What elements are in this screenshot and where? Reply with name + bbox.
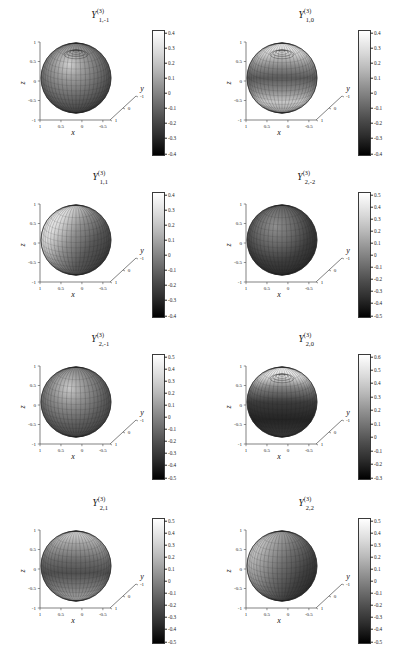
colorbar: 0.60.50.40.30.20.10-0.1-0.2-0.3 xyxy=(358,354,410,480)
colorbar-tick-label: -0.4 xyxy=(168,626,176,632)
colorbar-tick-label: 0 xyxy=(374,90,377,96)
colorbar-tick-mark xyxy=(164,617,167,618)
svg-text:0: 0 xyxy=(334,430,337,435)
svg-text:0: 0 xyxy=(81,612,84,617)
colorbar-tick-label: -0.5 xyxy=(374,313,382,319)
svg-text:y: y xyxy=(345,408,350,417)
colorbar-tick-mark xyxy=(370,153,373,154)
colorbar-tick-label: 0.5 xyxy=(374,518,380,524)
colorbar-tick-label: 0.1 xyxy=(374,240,380,246)
colorbar-tick-mark xyxy=(370,194,373,195)
colorbar-tick-label: -0.2 xyxy=(168,282,176,288)
colorbar-tick-mark xyxy=(370,629,373,630)
colorbar: 0.40.30.20.10-0.1-0.2-0.3-0.4 xyxy=(152,192,204,318)
panel-title-subscript: 2,0 xyxy=(306,340,314,347)
svg-text:0.5: 0.5 xyxy=(30,547,37,552)
svg-text:1: 1 xyxy=(115,118,118,123)
svg-text:0: 0 xyxy=(34,79,37,84)
colorbar-ticks: 0.40.30.20.10-0.1-0.2-0.3-0.4 xyxy=(165,30,203,156)
colorbar-tick-mark xyxy=(370,243,373,244)
svg-text:1: 1 xyxy=(245,124,248,129)
svg-text:x: x xyxy=(70,452,75,461)
svg-text:0: 0 xyxy=(81,448,84,453)
svg-text:0.5: 0.5 xyxy=(264,124,271,129)
colorbar-tick-mark xyxy=(370,255,373,256)
colorbar-tick-label: 0.1 xyxy=(374,566,380,572)
colorbar: 0.50.40.30.20.10-0.1-0.2-0.3-0.4-0.5 xyxy=(358,518,410,644)
svg-text:0.5: 0.5 xyxy=(30,383,37,388)
svg-text:-1: -1 xyxy=(32,606,37,611)
colorbar-tick-label: 0.1 xyxy=(168,75,174,81)
svg-text:-0.5: -0.5 xyxy=(99,448,107,453)
svg-text:0.5: 0.5 xyxy=(236,547,243,552)
panel-title-subscript: 2,-2 xyxy=(305,178,316,185)
panel-title: Y(3)1,-1 xyxy=(0,10,206,20)
colorbar-tick-mark xyxy=(370,108,373,109)
colorbar-tick-mark xyxy=(164,557,167,558)
svg-text:-1: -1 xyxy=(346,94,351,99)
panel-y-2-0: Y(3)2,010.50-0.5-1z10.50-0.5x-101y0.60.5… xyxy=(206,328,412,491)
svg-text:0: 0 xyxy=(240,567,243,572)
svg-text:-0.5: -0.5 xyxy=(234,422,242,427)
svg-text:-0.5: -0.5 xyxy=(234,586,242,591)
colorbar-tick-mark xyxy=(164,465,167,466)
axes-3d: 10.50-0.5-1z10.50-0.5x-101y xyxy=(224,190,352,318)
svg-text:1: 1 xyxy=(39,124,42,129)
colorbar-tick-label: -0.1 xyxy=(374,448,382,454)
colorbar-tick-label: 0.1 xyxy=(168,402,174,408)
colorbar-tick-label: 0.4 xyxy=(374,204,380,210)
colorbar: 0.50.40.30.20.10-0.1-0.2-0.3-0.4-0.5 xyxy=(358,192,410,318)
colorbar-tick-mark xyxy=(164,380,167,381)
svg-text:-1: -1 xyxy=(238,118,243,123)
svg-text:-0.5: -0.5 xyxy=(99,286,107,291)
colorbar-tick-label: -0.2 xyxy=(168,120,176,126)
plot-axes: 10.50-0.5-1z10.50-0.5x-101y xyxy=(18,190,146,318)
colorbar-tick-mark xyxy=(370,617,373,618)
svg-text:-1: -1 xyxy=(238,606,243,611)
colorbar-tick-label: 0.2 xyxy=(168,60,174,66)
colorbar-tick-mark xyxy=(164,356,167,357)
colorbar-tick-mark xyxy=(370,410,373,411)
colorbar-tick-label: -0.4 xyxy=(168,151,176,157)
colorbar-tick-mark xyxy=(370,383,373,384)
colorbar-ticks: 0.40.30.20.10-0.1-0.2-0.3-0.4 xyxy=(165,192,203,318)
sphere-surface xyxy=(41,205,111,275)
colorbar-tick-label: 0.1 xyxy=(168,566,174,572)
panel-y-2-1: Y(3)2,110.50-0.5-1z10.50-0.5x-101y0.50.4… xyxy=(0,492,206,655)
colorbar-tick-label: 0.2 xyxy=(374,554,380,560)
svg-text:-1: -1 xyxy=(140,256,145,261)
plot-axes: 10.50-0.5-1z10.50-0.5x-101y xyxy=(18,516,146,644)
colorbar-tick-mark xyxy=(164,453,167,454)
colorbar-tick-label: 0.2 xyxy=(168,222,174,228)
colorbar-tick-label: -0.3 xyxy=(168,297,176,303)
svg-text:-0.5: -0.5 xyxy=(234,260,242,265)
colorbar-tick-mark xyxy=(164,429,167,430)
svg-text:1: 1 xyxy=(245,448,248,453)
colorbar-tick-label: 0.4 xyxy=(168,366,174,372)
svg-text:z: z xyxy=(224,405,233,410)
svg-text:-1: -1 xyxy=(346,582,351,587)
colorbar-tick-mark xyxy=(164,315,167,316)
colorbar-tick-mark xyxy=(164,532,167,533)
svg-text:-0.5: -0.5 xyxy=(28,586,36,591)
panel-title-symbol: Y xyxy=(298,334,303,344)
colorbar-tick-label: -0.2 xyxy=(374,461,382,467)
colorbar: 0.40.30.20.10-0.1-0.2-0.3-0.4 xyxy=(358,30,410,156)
colorbar-tick-label: -0.4 xyxy=(374,626,382,632)
svg-text:z: z xyxy=(18,569,27,574)
axes-3d: 10.50-0.5-1z10.50-0.5x-101y xyxy=(18,28,146,156)
svg-text:0.5: 0.5 xyxy=(236,383,243,388)
panel-title-symbol: Y xyxy=(92,172,97,182)
svg-text:1: 1 xyxy=(34,202,37,207)
svg-text:0: 0 xyxy=(34,567,37,572)
svg-text:0: 0 xyxy=(334,594,337,599)
panel-title: Y(3)2,2 xyxy=(206,498,412,508)
colorbar-tick-mark xyxy=(370,520,373,521)
svg-text:x: x xyxy=(276,128,281,137)
colorbar-tick-mark xyxy=(164,224,167,225)
colorbar-tick-mark xyxy=(164,285,167,286)
colorbar-tick-label: 0 xyxy=(168,578,171,584)
colorbar-tick-mark xyxy=(370,557,373,558)
colorbar-tick-mark xyxy=(164,270,167,271)
colorbar-tick-label: 0.6 xyxy=(374,354,380,360)
